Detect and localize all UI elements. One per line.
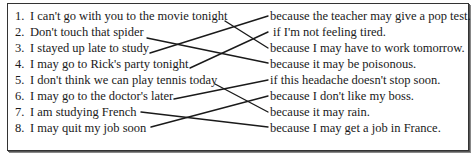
item-number: 3.	[15, 40, 30, 56]
left-item: 2.Don't touch that spider	[15, 24, 144, 40]
item-text: I can't go with you to the movie tonight	[30, 9, 227, 23]
item-text: I may go to the doctor's later	[30, 89, 173, 103]
item-number: 8.	[15, 120, 30, 136]
item-text: I may quit my job soon	[30, 121, 146, 135]
left-item: 6.I may go to the doctor's later	[15, 88, 173, 104]
right-item: because it may be poisonous.	[270, 56, 416, 72]
left-item: 4.I may go to Rick's party tonight	[15, 56, 188, 72]
item-text: Don't touch that spider	[30, 25, 144, 39]
item-text: I may go to Rick's party tonight	[30, 57, 188, 71]
item-number: 7.	[15, 104, 30, 120]
right-item: because I may have to work tomorrow.	[270, 40, 465, 56]
left-item: 8.I may quit my job soon	[15, 120, 146, 136]
right-item: because it may rain.	[270, 104, 370, 120]
item-number: 4.	[15, 56, 30, 72]
left-item: 7.I am studying French	[15, 104, 137, 120]
left-item: 1.I can't go with you to the movie tonig…	[15, 8, 227, 24]
right-item: because I may get a job in France.	[270, 120, 441, 136]
item-text: I am studying French	[30, 105, 137, 119]
item-number: 2.	[15, 24, 30, 40]
right-item: if I'm not feeling tired.	[273, 24, 386, 40]
item-number: 5.	[15, 72, 30, 88]
right-item: because I don't like my boss.	[270, 88, 414, 104]
item-number: 6.	[15, 88, 30, 104]
right-item: because the teacher may give a pop test.	[270, 8, 471, 24]
left-item: 5.I don't think we can play tennis today	[15, 72, 217, 88]
left-item: 3.I stayed up late to study	[15, 40, 149, 56]
item-text: I stayed up late to study	[30, 41, 149, 55]
item-text: I don't think we can play tennis today	[30, 73, 217, 87]
right-item: if this headache doesn't stop soon.	[270, 72, 440, 88]
item-number: 1.	[15, 8, 30, 24]
